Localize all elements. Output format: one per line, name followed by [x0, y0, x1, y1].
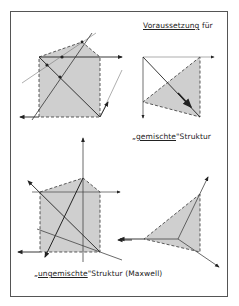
- figure-mixed-triangle: [143, 57, 214, 118]
- figure-unmixed-pentagon: [18, 138, 122, 262]
- heading-underlined: Voraussetzung: [143, 21, 199, 30]
- heading-label: Voraussetzung für: [143, 21, 213, 30]
- mixed-structure-label: „gemischte"Struktur: [132, 132, 211, 141]
- mixed-underlined: gemischte: [136, 132, 176, 141]
- mixed-suffix: "Struktur: [176, 132, 211, 141]
- figure-unmixed-triangle: [120, 177, 219, 267]
- heading-rest: für: [199, 21, 212, 30]
- unmixed-structure-label: „ungemischte"Struktur (Maxwell): [34, 269, 162, 278]
- unmixed-suffix: "Struktur (Maxwell): [88, 269, 163, 278]
- diagram-canvas: [0, 0, 239, 306]
- figure-mixed-pentagon: [20, 33, 122, 120]
- unmixed-underlined: ungemischte: [38, 269, 88, 278]
